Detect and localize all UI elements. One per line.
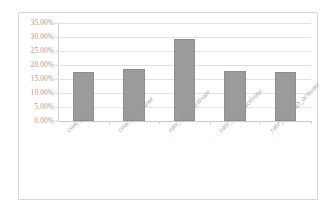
x-tick-mark [159,121,160,124]
y-tick-label: 15.00% [31,75,58,82]
chart-frame[interactable]: 0.00%5.00%10.00%15.00%20.00%25.00%30.00%… [18,12,318,200]
y-tick-label: 25.00% [31,47,58,54]
y-tick-label: 10.00% [31,89,58,96]
y-tick-label: 5.00% [34,103,58,110]
x-tick-mark [311,121,312,124]
x-tick-mark [109,121,110,124]
y-tick-label: 35.00% [31,19,58,26]
y-tick-label: 20.00% [31,61,58,68]
x-tick-mark [260,121,261,124]
y-tick-label: 30.00% [31,33,58,40]
x-tick-mark [210,121,211,124]
y-tick-label: 0.00% [34,117,58,124]
plot-area[interactable]: 0.00%5.00%10.00%15.00%20.00%25.00%30.00%… [58,23,311,121]
